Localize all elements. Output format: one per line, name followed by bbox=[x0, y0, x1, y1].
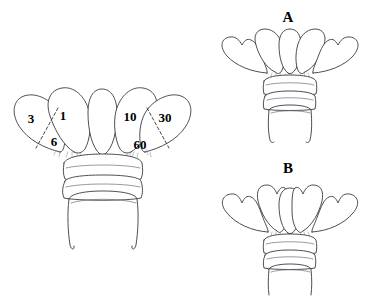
basal-ring-2 bbox=[63, 175, 143, 200]
figure-canvas: 3 6 1 10 60 30 A bbox=[0, 0, 366, 296]
segment-label-60: 60 bbox=[134, 137, 147, 152]
panel-b-label: B bbox=[283, 160, 293, 176]
segment-label-6: 6 bbox=[51, 134, 58, 149]
segment-label-3: 3 bbox=[28, 111, 35, 126]
panel-a-label: A bbox=[283, 9, 294, 25]
segment-label-1: 1 bbox=[60, 108, 67, 123]
segment-label-30: 30 bbox=[159, 110, 172, 125]
segment-label-10: 10 bbox=[124, 109, 137, 124]
